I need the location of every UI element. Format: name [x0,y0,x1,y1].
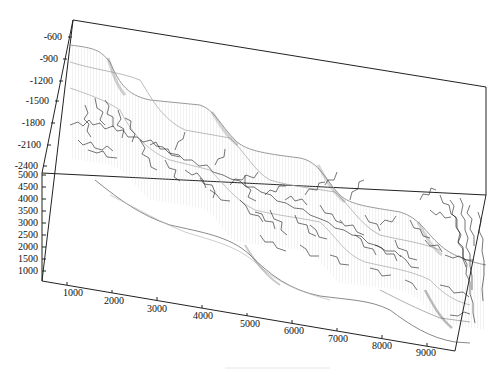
y-tick-label: 4500 [18,181,38,192]
x-tick-label: 5000 [240,318,260,329]
y-tick-label: 5000 [18,169,38,180]
x-tick-label: 3000 [147,303,167,314]
y-tick-label: 1000 [18,265,38,276]
z-tick-label: -1200 [30,75,53,86]
z-tick-label: -2100 [18,139,41,150]
x-axis: 1000 2000 3000 4000 5000 6000 7000 8000 … [63,282,436,358]
x-tick-label: 1000 [63,287,83,298]
z-tick-label: -900 [40,53,58,64]
z-tick-label: -1500 [26,95,49,106]
x-tick-label: 6000 [284,325,304,336]
x-tick-label: 4000 [193,310,213,321]
y-tick-label: 1500 [18,253,38,264]
y-tick-label: 3500 [18,205,38,216]
y-tick-label: 3000 [18,217,38,228]
y-tick-label: 2500 [18,229,38,240]
z-tick-label: -600 [44,31,62,42]
y-tick-label: 4000 [18,193,38,204]
z-tick-label: -1800 [22,117,45,128]
3d-surface-plot: -600 -900 -1200 -1500 -1800 -2100 -2400 … [0,0,502,369]
x-tick-label: 9000 [416,347,436,358]
y-tick-label: 2000 [18,241,38,252]
x-tick-label: 2000 [104,295,124,306]
x-tick-label: 8000 [372,340,392,351]
x-tick-label: 7000 [328,333,348,344]
